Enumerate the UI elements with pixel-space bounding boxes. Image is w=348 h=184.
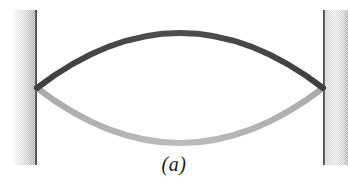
right-wall-dither (323, 10, 348, 165)
figure-caption-label: (a) (0, 152, 348, 176)
right-wall (323, 10, 348, 165)
string-curve-upward (37, 33, 323, 88)
standing-wave-figure: (a) (0, 0, 348, 184)
string-curve-downward (37, 88, 323, 143)
left-wall (12, 10, 37, 165)
left-wall-dither (12, 10, 37, 165)
